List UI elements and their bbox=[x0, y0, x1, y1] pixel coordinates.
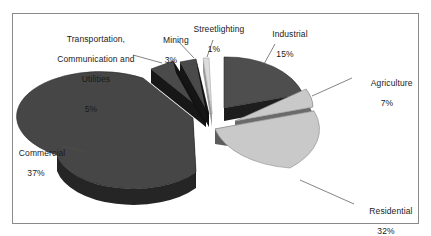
label-streetlighting-name: Streetlighting bbox=[193, 24, 244, 34]
label-industrial: Industrial 15% bbox=[259, 19, 311, 79]
pie-chart: Transportation, Communication and Utilit… bbox=[0, 0, 431, 236]
label-industrial-name: Industrial bbox=[272, 29, 308, 39]
label-transportation-line2: Communication and bbox=[57, 54, 134, 64]
label-transportation-pct: 5% bbox=[46, 104, 136, 114]
label-agriculture-name: Agriculture bbox=[371, 78, 413, 88]
leader-line-residential bbox=[300, 180, 354, 204]
leader-line-agriculture bbox=[312, 78, 352, 96]
label-residential-pct: 32% bbox=[358, 226, 414, 236]
label-agriculture: Agriculture 7% bbox=[358, 68, 416, 128]
label-transportation: Transportation, Communication and Utilit… bbox=[46, 24, 136, 134]
label-agriculture-pct: 7% bbox=[358, 98, 416, 108]
label-streetlighting-pct: 1% bbox=[183, 44, 245, 54]
label-streetlighting: Streetlighting 1% bbox=[183, 14, 245, 74]
label-residential-name: Residential bbox=[369, 206, 412, 216]
label-commercial-pct: 37% bbox=[9, 168, 63, 178]
label-residential: Residential 32% bbox=[358, 196, 414, 236]
label-transportation-line3: Utilities bbox=[82, 74, 110, 84]
label-transportation-line1: Transportation, bbox=[67, 34, 125, 44]
label-industrial-pct: 15% bbox=[259, 49, 311, 59]
label-commercial: Commercial 37% bbox=[9, 138, 63, 198]
label-commercial-name: Commercial bbox=[19, 148, 65, 158]
